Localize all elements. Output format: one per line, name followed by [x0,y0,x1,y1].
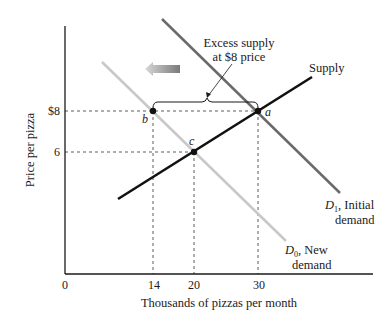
y-tick-8: $8 [48,104,60,118]
d0-symbol: D [284,243,294,257]
point-c [191,149,197,155]
excess-supply-brace [153,98,258,108]
guide-lines [65,111,258,274]
d0-rest: , New [298,243,328,257]
x-tick-20: 20 [188,278,200,292]
y-tick-6: 6 [54,145,60,159]
point-a-label: a [265,105,271,119]
d1-label-line1: D1, Initial [324,198,375,214]
d0-label-line2: demand [292,258,332,272]
y-axis-title: Price per pizza [23,112,37,187]
left-shift-arrow-icon [145,62,180,76]
excess-supply-label-line1: Excess supply [203,36,275,50]
x-tick-0: 0 [62,278,68,292]
d1-rest: , Initial [338,198,375,212]
d1-symbol: D [324,198,334,212]
d1-label-line2: demand [335,213,375,227]
excess-supply-label-line2: at $8 price [213,50,266,64]
point-a [255,108,261,114]
x-tick-14: 14 [148,278,160,292]
x-axis-title: Thousands of pizzas per month [141,296,298,310]
supply-label: Supply [309,61,345,75]
point-b [150,108,156,114]
x-tick-30: 30 [253,278,265,292]
point-c-label: c [189,134,195,148]
d0-label-line1: D0, New [284,243,328,259]
supply-demand-diagram: a b c $8 6 0 14 20 30 Thousands of pizza… [0,0,390,318]
point-b-label: b [142,112,148,126]
